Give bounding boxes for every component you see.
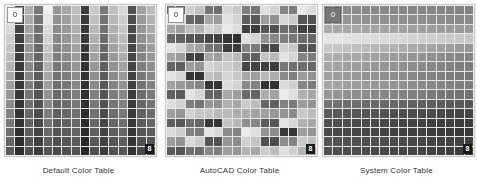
- color-swatch[interactable]: [214, 44, 222, 52]
- color-swatch[interactable]: [81, 6, 89, 14]
- color-swatch[interactable]: [176, 25, 184, 33]
- color-swatch[interactable]: [137, 119, 145, 127]
- color-swatch[interactable]: [128, 44, 136, 52]
- color-swatch[interactable]: [72, 100, 80, 108]
- color-swatch[interactable]: [343, 34, 351, 42]
- color-swatch[interactable]: [214, 109, 222, 117]
- color-swatch[interactable]: [242, 53, 250, 61]
- color-swatch[interactable]: [390, 62, 398, 70]
- color-swatch[interactable]: [289, 62, 297, 70]
- color-swatch[interactable]: [167, 128, 175, 136]
- color-swatch[interactable]: [408, 81, 416, 89]
- color-swatch[interactable]: [418, 100, 426, 108]
- color-swatch[interactable]: [128, 6, 136, 14]
- color-swatch[interactable]: [261, 81, 269, 89]
- color-swatch[interactable]: [195, 128, 203, 136]
- color-swatch[interactable]: [147, 25, 155, 33]
- color-swatch[interactable]: [176, 90, 184, 98]
- color-swatch[interactable]: [380, 137, 388, 145]
- color-swatch[interactable]: [233, 147, 241, 155]
- color-swatch[interactable]: [72, 128, 80, 136]
- color-swatch[interactable]: [100, 119, 108, 127]
- color-swatch[interactable]: [261, 34, 269, 42]
- color-swatch[interactable]: [147, 81, 155, 89]
- color-swatch[interactable]: [81, 128, 89, 136]
- color-swatch[interactable]: [408, 6, 416, 14]
- color-swatch[interactable]: [390, 34, 398, 42]
- color-swatch[interactable]: [261, 109, 269, 117]
- color-swatch[interactable]: [280, 6, 288, 14]
- color-swatch[interactable]: [362, 34, 370, 42]
- color-swatch[interactable]: [90, 15, 98, 23]
- color-swatch[interactable]: [34, 119, 42, 127]
- color-swatch[interactable]: [195, 81, 203, 89]
- color-swatch[interactable]: [427, 53, 435, 61]
- color-swatch[interactable]: [455, 62, 463, 70]
- color-swatch[interactable]: [333, 34, 341, 42]
- color-swatch[interactable]: [399, 62, 407, 70]
- color-swatch[interactable]: [289, 25, 297, 33]
- color-swatch[interactable]: [390, 137, 398, 145]
- color-swatch[interactable]: [298, 81, 306, 89]
- color-swatch[interactable]: [280, 15, 288, 23]
- color-swatch[interactable]: [270, 6, 278, 14]
- color-swatch[interactable]: [298, 62, 306, 70]
- color-swatch[interactable]: [242, 81, 250, 89]
- color-swatch[interactable]: [427, 62, 435, 70]
- color-swatch[interactable]: [352, 15, 360, 23]
- color-swatch[interactable]: [399, 72, 407, 80]
- color-swatch[interactable]: [147, 44, 155, 52]
- color-swatch[interactable]: [223, 25, 231, 33]
- color-swatch[interactable]: [251, 147, 259, 155]
- color-swatch[interactable]: [324, 147, 332, 155]
- color-swatch[interactable]: [81, 62, 89, 70]
- color-swatch[interactable]: [437, 62, 445, 70]
- color-swatch[interactable]: [261, 147, 269, 155]
- color-swatch[interactable]: [128, 34, 136, 42]
- color-swatch[interactable]: [34, 100, 42, 108]
- color-swatch[interactable]: [324, 137, 332, 145]
- color-swatch[interactable]: [109, 137, 117, 145]
- color-swatch[interactable]: [53, 15, 61, 23]
- color-swatch[interactable]: [343, 119, 351, 127]
- color-swatch[interactable]: [15, 147, 23, 155]
- color-swatch[interactable]: [280, 25, 288, 33]
- color-swatch[interactable]: [223, 128, 231, 136]
- color-swatch[interactable]: [25, 100, 33, 108]
- color-swatch[interactable]: [362, 6, 370, 14]
- color-swatch[interactable]: [44, 72, 52, 80]
- color-swatch[interactable]: [100, 137, 108, 145]
- color-swatch[interactable]: [186, 100, 194, 108]
- color-swatch[interactable]: [280, 128, 288, 136]
- color-swatch[interactable]: [62, 137, 70, 145]
- color-swatch[interactable]: [308, 119, 316, 127]
- color-swatch[interactable]: [380, 53, 388, 61]
- color-swatch[interactable]: [418, 81, 426, 89]
- color-swatch[interactable]: [62, 100, 70, 108]
- color-swatch[interactable]: [352, 119, 360, 127]
- color-swatch[interactable]: [242, 137, 250, 145]
- color-swatch[interactable]: [128, 128, 136, 136]
- color-swatch[interactable]: [399, 34, 407, 42]
- color-swatch[interactable]: [25, 109, 33, 117]
- color-swatch[interactable]: [289, 100, 297, 108]
- color-swatch[interactable]: [298, 25, 306, 33]
- color-swatch[interactable]: [242, 128, 250, 136]
- color-swatch[interactable]: [109, 128, 117, 136]
- color-swatch[interactable]: [333, 100, 341, 108]
- color-swatch[interactable]: [352, 109, 360, 117]
- color-swatch[interactable]: [176, 72, 184, 80]
- color-swatch[interactable]: [289, 53, 297, 61]
- color-swatch[interactable]: [137, 90, 145, 98]
- color-swatch[interactable]: [343, 6, 351, 14]
- color-swatch[interactable]: [128, 137, 136, 145]
- color-swatch[interactable]: [280, 100, 288, 108]
- color-swatch[interactable]: [408, 34, 416, 42]
- color-swatch[interactable]: [437, 137, 445, 145]
- color-swatch[interactable]: [223, 119, 231, 127]
- color-swatch[interactable]: [53, 100, 61, 108]
- color-swatch[interactable]: [333, 147, 341, 155]
- color-swatch[interactable]: [223, 100, 231, 108]
- color-swatch[interactable]: [352, 62, 360, 70]
- color-swatch[interactable]: [399, 44, 407, 52]
